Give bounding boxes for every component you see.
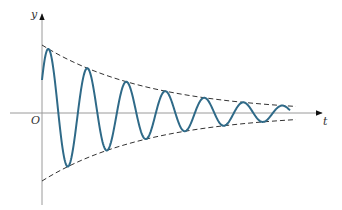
y-axis-label: y [30, 8, 38, 21]
origin-label: O [31, 114, 40, 127]
damped-oscillation-diagram: y t O [0, 0, 342, 210]
t-axis-label: t [323, 115, 328, 128]
lower-envelope [42, 120, 296, 181]
damped-oscillation-curve [42, 49, 290, 167]
